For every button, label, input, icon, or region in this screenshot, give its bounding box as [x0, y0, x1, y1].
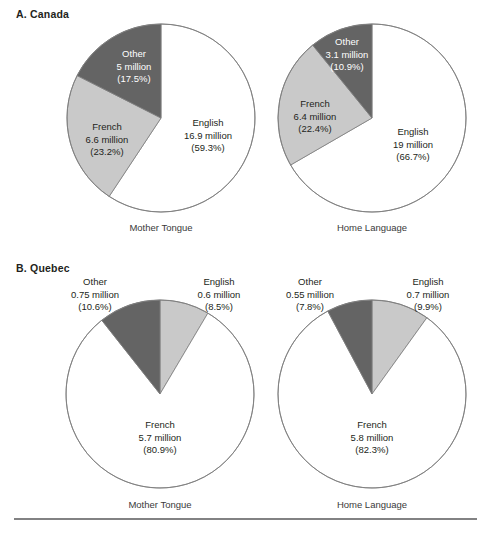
- chart-caption-canada-mother-tongue: Mother Tongue: [129, 222, 192, 233]
- panel-title-quebec: B. Quebec: [16, 262, 70, 274]
- slice-label-canada-home-language-english: English19 million(66.7%): [393, 126, 433, 162]
- chart-caption-canada-home-language: Home Language: [337, 222, 407, 233]
- panel-title-canada: A. Canada: [16, 8, 69, 20]
- chart-caption-quebec-home-language: Home Language: [337, 499, 407, 510]
- language-pie-figure: A. CanadaB. Quebec Mother TongueHome Lan…: [0, 0, 489, 533]
- chart-caption-quebec-mother-tongue: Mother Tongue: [128, 499, 191, 510]
